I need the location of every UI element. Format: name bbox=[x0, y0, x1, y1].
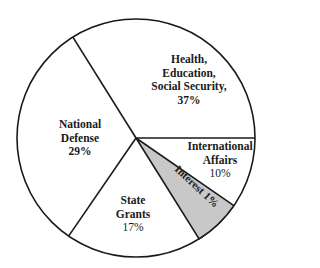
label-intl: International Affairs 10% bbox=[170, 140, 269, 181]
label-health-line3: Social Security, bbox=[124, 80, 254, 94]
label-health-line1: Health, bbox=[124, 53, 254, 67]
label-state-pct: 17% bbox=[103, 221, 163, 235]
label-health: Health, Education, Social Security, 37% bbox=[124, 53, 254, 107]
label-defense-line1: National bbox=[40, 118, 120, 132]
label-state-line1: State bbox=[103, 194, 163, 208]
label-defense-line2: Defense bbox=[40, 132, 120, 146]
label-defense-pct: 29% bbox=[40, 145, 120, 159]
label-health-pct: 37% bbox=[124, 94, 254, 108]
label-health-line2: Education, bbox=[124, 67, 254, 81]
label-defense: National Defense 29% bbox=[40, 118, 120, 159]
label-intl-pct: 10% bbox=[170, 167, 269, 181]
label-intl-line2: Affairs bbox=[170, 154, 269, 168]
label-intl-line1: International bbox=[170, 140, 269, 154]
label-state-line2: Grants bbox=[103, 208, 163, 222]
label-state: State Grants 17% bbox=[103, 194, 163, 235]
